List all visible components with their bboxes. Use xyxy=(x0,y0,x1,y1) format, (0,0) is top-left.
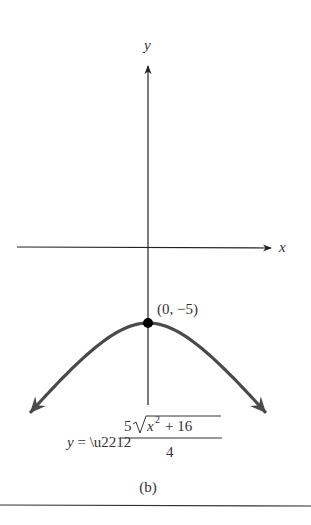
x-axis-label: x xyxy=(278,239,286,255)
bottom-rule xyxy=(0,505,311,506)
x-axis xyxy=(17,247,271,248)
equation: y = \u2212 5 x 2 + 16 4 xyxy=(65,414,222,460)
equation-radicand-exp: 2 xyxy=(155,414,160,425)
graph: x y (0, −5) y = \u2212 5 x 2 + 16 4 (b) xyxy=(0,0,311,525)
equation-numerator-coef: 5 xyxy=(124,418,132,434)
equation-radicand-var: x xyxy=(146,418,154,434)
equation-radicand-rest: + 16 xyxy=(165,418,193,434)
equation-denominator: 4 xyxy=(166,444,174,460)
y-axis-label: y xyxy=(142,37,151,53)
equation-lhs: y = \u2212 xyxy=(65,434,131,450)
vertex-point xyxy=(143,318,153,328)
vertex-label: (0, −5) xyxy=(157,301,198,318)
figure-caption: (b) xyxy=(139,479,157,496)
